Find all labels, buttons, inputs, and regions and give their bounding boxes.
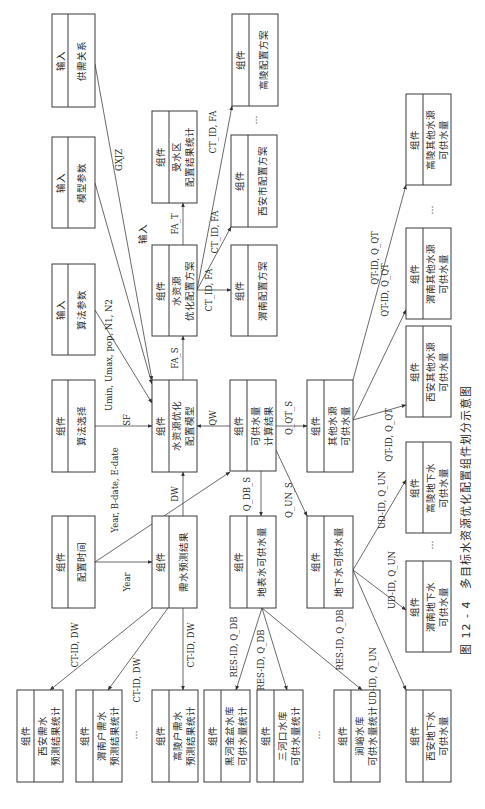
component-box-dxs: 组件地下水可供水量: [307, 516, 353, 608]
box-title-line: 可供水量: [438, 120, 449, 160]
box-type-label: 组件: [409, 478, 420, 498]
box-type-label: 组件: [233, 416, 244, 436]
edge-label: FA_T: [170, 213, 181, 235]
box-title-line: 需水预测结果: [178, 532, 189, 592]
box-title-line: 预测结果统计: [50, 706, 61, 766]
component-box-xa_xs: 组件西安需水预测结果统计: [17, 690, 63, 782]
box-title-line: 渭南地下水: [425, 582, 436, 632]
edge-label: UD-ID, Q_UN: [368, 646, 379, 705]
component-box-gl_qt: 组件高陵其他水源可供水量: [406, 94, 451, 185]
box-type-label: 组件: [310, 552, 321, 572]
box-title-line: 预测结果统计: [109, 706, 120, 766]
box-type-label: 组件: [79, 726, 90, 746]
ellipsis-more-items: …: [129, 731, 139, 740]
box-title-line: 模型参数: [76, 163, 87, 203]
box-type-label: 输入: [55, 300, 66, 320]
edge-label: Q_QT_S: [284, 401, 295, 435]
edge-dxs-to-xa_dx: [353, 570, 406, 690]
box-type-label: 组件: [155, 147, 166, 167]
box-title-line: 西安其他水源: [425, 342, 436, 402]
box-title-line: 渭南配置方案: [257, 261, 268, 321]
component-box-xa_qt: 组件西安其他水源可供水量: [406, 326, 451, 417]
edge-label: UD-ID, Q_UN: [387, 550, 398, 609]
edge-label: CT_ID, FA: [208, 110, 219, 154]
component-box-kgs: 组件可供水量计算结果: [230, 380, 276, 471]
ellipsis-more-items: …: [249, 116, 259, 125]
box-type-label: 组件: [155, 416, 166, 436]
box-type-label: 组件: [20, 726, 31, 746]
component-box-gl_xs: 组件高陵户需水预测结果统计: [152, 690, 198, 782]
box-title-line: 高陵户需水: [172, 711, 183, 761]
box-type-label: 组件: [155, 726, 166, 746]
edge-label: Q_DB_S: [242, 477, 253, 512]
box-title-line: 配置模型: [184, 406, 195, 446]
box-type-label: 组件: [233, 552, 244, 572]
edge-dxs-to-wn_dx: [353, 570, 406, 610]
box-title-line: 西安地下水: [425, 711, 436, 761]
box-type-label: 输入: [55, 173, 66, 193]
box-type-label: 组件: [260, 726, 271, 746]
component-box-wn_qt: 组件渭南其他水源可供水量: [406, 228, 451, 319]
box-title-line: 渭南户需水: [96, 711, 107, 761]
box-title-line: 优化配置方案: [184, 261, 195, 321]
box-type-label: 组件: [409, 130, 420, 150]
box-title-line: 可供水量统计: [290, 706, 301, 766]
edge-label: RES-ID, Q_DB: [335, 609, 346, 670]
component-box-sfxz: 组件算法选择: [52, 380, 95, 472]
box-type-label: 组件: [409, 362, 420, 382]
edge-label: QT-ID, Q_QT: [380, 263, 391, 317]
component-box-mx: 组件水资源优化配置模型: [152, 380, 197, 472]
box-type-label: 组件: [337, 726, 348, 746]
component-box-wn_xs: 组件渭南户需水预测结果统计: [76, 690, 122, 782]
edge-dbs-to-jy: [262, 608, 362, 690]
box-title-line: 可供水量: [438, 716, 449, 756]
box-title-line: 水资源: [171, 276, 182, 306]
edge-label: RES-ID, Q_DB: [256, 629, 267, 690]
box-title-line: 西安市配置方案: [257, 146, 268, 216]
box-title-line: 计算结果: [263, 406, 274, 446]
edge-label: DW: [170, 486, 180, 502]
box-title-line: 可供水量: [340, 406, 351, 446]
box-title-line: 预测结果统计: [185, 706, 196, 766]
component-diagram: 输入供需关系输入模型参数输入算法参数组件算法选择组件配置时间组件受水区配置结果统…: [0, 0, 485, 809]
edge-label: UD-ID, Q_UN: [377, 470, 388, 529]
figure-caption: 图 12 - 4 多目标水资源优化配置组件划分示意图: [459, 385, 473, 655]
box-type-label: 组件: [155, 552, 166, 572]
box-title-line: 地表水可供水量: [256, 527, 267, 597]
edge-label: SF: [122, 414, 132, 426]
ellipsis-more-items: …: [425, 541, 435, 550]
box-type-label: 组件: [409, 597, 420, 617]
box-title-line: 供需关系: [76, 41, 87, 81]
box-title-line: 可供水量: [438, 352, 449, 392]
box-type-label: 组件: [207, 726, 218, 746]
box-type-label: 组件: [409, 726, 420, 746]
box-title-line: 可供水量: [250, 406, 261, 446]
component-box-gl_dx: 组件高陵地下水可供水量: [406, 442, 451, 533]
box-title-line: 可供水量统计: [367, 706, 378, 766]
box-type-label: 组件: [155, 281, 166, 301]
component-box-xa_dx: 组件西安地下水可供水量: [406, 690, 451, 782]
box-type-label: 组件: [234, 281, 245, 301]
box-title-line: 三河口水库: [277, 711, 288, 761]
edge-label: FA_S: [170, 347, 181, 369]
edge-label: CT-ID, DW: [132, 657, 142, 702]
edge-label: RES-ID, Q_DB: [229, 616, 240, 677]
ellipsis-more-items: …: [312, 731, 322, 740]
component-box-wn_dx: 组件渭南地下水可供水量: [406, 561, 451, 652]
edge-label: GXJZ: [114, 149, 124, 171]
box-title-line: 可供水量: [438, 468, 449, 508]
edge-label: Year: [122, 572, 132, 593]
box-title-line: 高陵其他水源: [425, 110, 436, 170]
input-annotation: 输入: [137, 224, 148, 244]
box-title-line: 其他水源: [327, 406, 338, 446]
component-box-qt: 组件其他水源可供水量: [307, 380, 353, 472]
box-type-label: 组件: [234, 171, 245, 191]
box-title-line: 黑河金盆水库: [224, 706, 235, 766]
edge-label: CT_ID, FA: [204, 268, 215, 312]
box-type-label: 组件: [310, 416, 321, 436]
box-type-label: 组件: [409, 264, 420, 284]
component-box-xs: 组件需水预测结果: [152, 516, 197, 608]
box-title-line: 渭南其他水源: [425, 244, 436, 304]
box-title-line: 高陵地下水: [425, 463, 436, 513]
box-title-line: 算法选择: [76, 406, 87, 446]
